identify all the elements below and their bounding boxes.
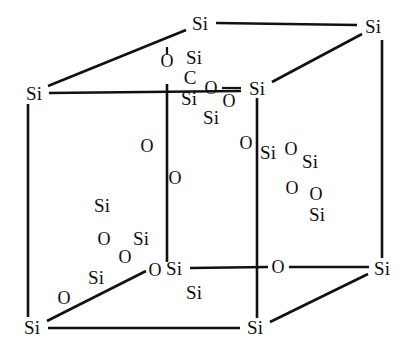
vertex-bottom-back-left: Si — [166, 259, 182, 278]
right-cluster-si-1: Si — [260, 143, 276, 162]
mid-left-o-2: O — [169, 169, 182, 187]
lower-left-o-3: O — [58, 289, 71, 307]
vertex-bottom-front-right: Si — [247, 318, 263, 337]
edge-bottom-right-diagonal — [270, 274, 368, 322]
vertex-bottom-back-right: Si — [374, 259, 390, 278]
cluster-center-o-1: O — [205, 79, 218, 97]
lower-left-si-3: Si — [88, 268, 104, 287]
vertex-top-front-right: Si — [249, 79, 265, 98]
lower-left-si-1: Si — [94, 196, 110, 215]
edge-atom-bottom-left-o: O — [149, 261, 162, 279]
cluster-center-si-2: Si — [181, 89, 197, 108]
edge-atom-bottom-right-o: O — [272, 258, 285, 276]
cluster-center-c: C — [184, 68, 197, 87]
lower-left-si-2: Si — [133, 229, 149, 248]
edge-bottom-back — [190, 267, 268, 268]
edge-top-right-diagonal — [272, 34, 362, 82]
molecular-structure-diagram: SiSiSiSiSiSiSiSiOOOSiCSiOOSiOSiOSiOOSiOO… — [0, 0, 406, 349]
right-cluster-o-2: O — [285, 140, 298, 158]
vertex-top-back-left: Si — [192, 14, 208, 33]
mid-left-o-1: O — [141, 137, 154, 155]
edge-atom-top-center-o: O — [161, 52, 174, 70]
lower-left-o-2: O — [119, 248, 132, 266]
vertex-top-front-left: Si — [26, 84, 42, 103]
lower-left-o-1: O — [98, 230, 111, 248]
cluster-center-si-3: Si — [203, 108, 219, 127]
right-cluster-si-3: Si — [309, 205, 325, 224]
vertex-bottom-front-left: Si — [24, 318, 40, 337]
right-cluster-si-2: Si — [302, 152, 318, 171]
right-cluster-o-1: O — [240, 134, 253, 152]
vertex-top-back-right: Si — [365, 17, 381, 36]
cluster-center-o-2: O — [223, 92, 236, 110]
cluster-center-si-1: Si — [186, 48, 202, 67]
lower-center-si: Si — [186, 283, 202, 302]
right-cluster-o-4: O — [310, 185, 323, 203]
edge-top-back — [216, 23, 357, 25]
right-cluster-o-3: O — [286, 179, 299, 197]
